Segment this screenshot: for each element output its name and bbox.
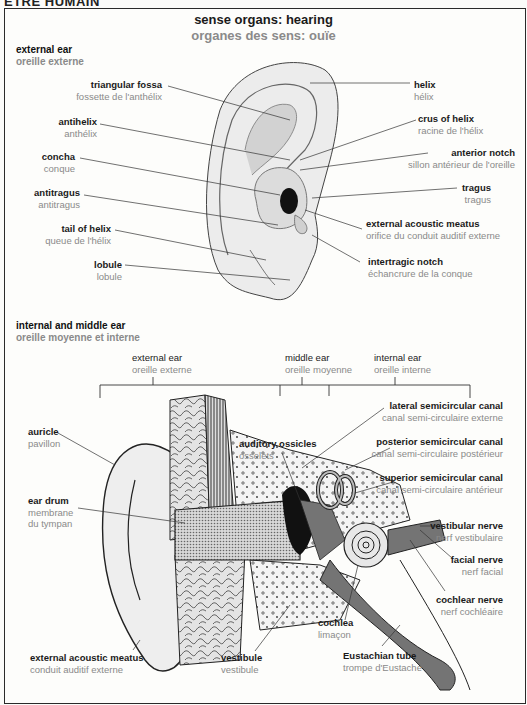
label-superior-semicircular-canal: superior semicircular canalcanal semi-ci… [376, 472, 503, 495]
label-lateral-semicircular-canal: lateral semicircular canalcanal semi-cir… [382, 400, 503, 423]
division-middle-ear: middle earoreille moyenne [285, 352, 352, 375]
label-cochlear-nerve: cochlear nervenerf cochléaire [436, 594, 503, 617]
title-english: sense organs: hearing [0, 12, 527, 28]
section-heading-internal-middle-ear: internal and middle ear oreille moyenne … [16, 320, 140, 344]
label-crus-of-helix: crus of helixracine de l'hélix [418, 113, 483, 136]
label-antihelix: antihelixanthélix [58, 116, 97, 139]
label-auricle: auriclepavillon [28, 426, 60, 449]
division-external-ear: external earoreille externe [132, 352, 192, 375]
label-intertragic-notch: intertragic notchéchancrure de la conque [368, 256, 473, 279]
label-lobule: lobulelobule [94, 259, 122, 282]
label-triangular-fossa: triangular fossafossette de l'anthélix [76, 79, 162, 102]
label-vestibular-nerve: vestibular nervenerf vestibulaire [430, 520, 503, 543]
label-tragus: tragustragus [462, 182, 491, 205]
label-concha: conchaconque [42, 151, 75, 174]
diagram-title: sense organs: hearing organes des sens: … [0, 12, 527, 44]
label-helix: helixhélix [414, 79, 436, 102]
division-internal-ear: internal earoreille interne [374, 352, 431, 375]
label-antitragus: antitragusantitragus [34, 187, 80, 210]
label-vestibule: vestibulevestibule [221, 652, 262, 675]
label-external-acoustic-meatus-canal: external acoustic meatusconduit auditif … [30, 652, 144, 675]
label-eustachian-tube: Eustachian tubetrompe d'Eustache [343, 650, 422, 673]
title-french: organes des sens: ouïe [0, 28, 527, 44]
division-bracket [100, 377, 470, 398]
label-anterior-notch: anterior notchsillon antérieur de l'orei… [408, 147, 515, 170]
outer-ear-drawing [206, 63, 338, 300]
label-facial-nerve: facial nervenerf facial [451, 554, 503, 577]
label-cochlea: cochlealimaçon [318, 617, 353, 640]
label-external-acoustic-meatus: external acoustic meatusorifice du condu… [366, 218, 500, 241]
label-posterior-semicircular-canal: posterior semicircular canalcanal semi-c… [372, 436, 503, 459]
section-heading-external-ear: external ear oreille externe [16, 44, 84, 68]
label-tail-of-helix: tail of helixqueue de l'hélix [45, 223, 111, 246]
label-ear-drum: ear drummembranedu tympan [28, 495, 73, 530]
label-auditory-ossicles: auditory ossiclesosselets [239, 438, 317, 461]
